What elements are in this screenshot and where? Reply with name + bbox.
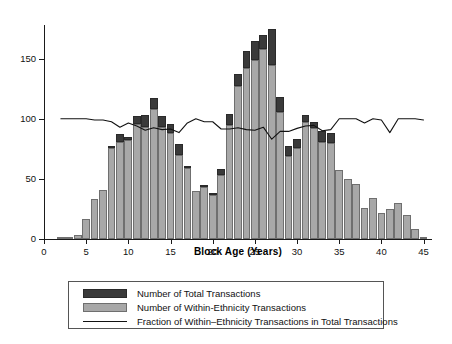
x-tick [86,239,87,244]
legend-label-within: Number of Within-Ethnicity Transactions [137,302,306,313]
within-swatch-icon [83,303,127,312]
x-axis-line [44,239,432,240]
legend-item-within: Number of Within-Ethnicity Transactions [83,300,383,314]
y-tick-label: 0 [31,233,36,244]
x-tick [381,239,382,244]
plot-area: 051015202530354045 [44,25,432,239]
x-tick [213,239,214,244]
fraction-line-series [44,25,432,239]
chart-legend: Number of Total Transactions Number of W… [68,281,384,329]
y-tick-label: 100 [20,113,36,124]
y-tick-label: 150 [20,53,36,64]
x-tick [255,239,256,244]
legend-item-total: Number of Total Transactions [83,286,383,300]
line-swatch-icon [83,317,127,326]
legend-item-fraction: Fraction of Within–Ethnicity Transaction… [83,314,383,328]
y-tick-label: 50 [25,173,36,184]
x-axis-title: Block Age (Years) [44,246,432,257]
x-tick [339,239,340,244]
x-tick [128,239,129,244]
total-swatch-icon [83,289,127,298]
legend-label-total: Number of Total Transactions [137,288,260,299]
x-tick [44,239,45,244]
x-tick [171,239,172,244]
x-tick [297,239,298,244]
legend-label-fraction: Fraction of Within–Ethnicity Transaction… [137,316,398,327]
x-tick [424,239,425,244]
chart-figure: 051015202530354045 050100150 Block Age (… [0,0,452,344]
